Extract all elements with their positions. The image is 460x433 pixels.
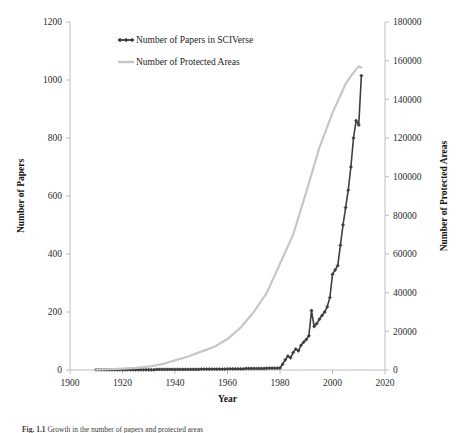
x-tick-label: 1960	[218, 378, 237, 388]
x-tick-label: 1900	[61, 378, 80, 388]
y-tick-label: 600	[48, 191, 63, 201]
series-marker	[344, 206, 347, 209]
y2-tick-label: 120000	[393, 133, 422, 143]
y-tick-label: 1000	[43, 75, 62, 85]
series-marker	[310, 309, 313, 312]
y2-tick-label: 100000	[393, 172, 422, 182]
series-marker	[349, 165, 352, 168]
legend-marker-papers	[124, 38, 128, 42]
line-chart: 0200400600800100012000200004000060000800…	[0, 0, 460, 410]
x-axis-title: Year	[218, 394, 238, 404]
series-marker	[352, 136, 355, 139]
series-marker	[360, 74, 363, 77]
y2-tick-label: 80000	[393, 211, 417, 221]
series-line-1	[96, 66, 361, 369]
y2-tick-label: 160000	[393, 56, 422, 66]
series-marker	[328, 296, 331, 299]
y-tick-label: 400	[48, 249, 63, 259]
y-tick-label: 200	[48, 307, 63, 317]
legend-label-protected-areas: Number of Protected Areas	[136, 57, 240, 67]
figure-caption-label: Fig. 1.1	[22, 425, 46, 433]
legend-marker-papers	[118, 38, 122, 42]
y2-tick-label: 60000	[393, 249, 417, 259]
x-tick-label: 1940	[166, 378, 185, 388]
y2-axis-title: Number of Protected Areas	[439, 140, 449, 251]
x-tick-label: 1920	[113, 378, 132, 388]
series-line-0	[96, 76, 361, 370]
figure-caption: Fig. 1.1 Growth in the number of papers …	[22, 424, 203, 433]
figure-container: 0200400600800100012000200004000060000800…	[0, 0, 460, 433]
y-axis-title: Number of Papers	[16, 159, 26, 234]
y2-tick-label: 20000	[393, 327, 417, 337]
series-marker	[339, 244, 342, 247]
y2-tick-label: 140000	[393, 95, 422, 105]
legend-marker-papers	[130, 38, 134, 42]
series-marker	[341, 223, 344, 226]
y2-tick-label: 0	[393, 365, 398, 375]
x-tick-label: 2000	[323, 378, 342, 388]
x-tick-label: 1980	[271, 378, 290, 388]
y-tick-label: 800	[48, 133, 63, 143]
y-tick-label: 0	[57, 365, 62, 375]
y2-tick-label: 40000	[393, 288, 417, 298]
y2-tick-label: 180000	[393, 17, 422, 27]
series-marker	[347, 189, 350, 192]
legend-label-papers: Number of Papers in SCIVerse	[136, 35, 253, 45]
figure-caption-text: Growth in the number of papers and prote…	[47, 425, 203, 433]
y-tick-label: 1200	[43, 17, 62, 27]
x-tick-label: 2020	[376, 378, 395, 388]
